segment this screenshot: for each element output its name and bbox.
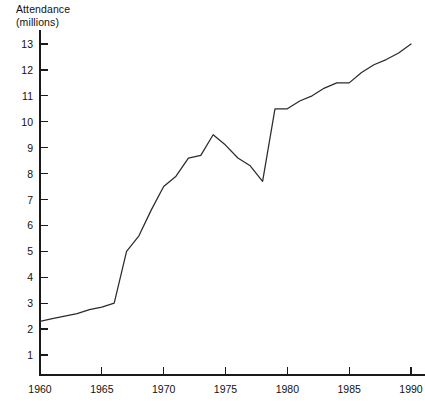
- y-tick-label: 1: [27, 349, 33, 361]
- x-tick-label: 1980: [276, 383, 300, 395]
- x-tick-label: 1965: [90, 383, 114, 395]
- x-tick-label: 1985: [337, 383, 361, 395]
- y-axis-ticks: 12345678910111213: [21, 38, 48, 361]
- y-tick-label: 10: [21, 116, 33, 128]
- y-tick-label: 4: [27, 271, 33, 283]
- attendance-line-chart: Attendance (millions) 12345678910111213 …: [0, 0, 425, 408]
- y-tick-label: 7: [27, 194, 33, 206]
- y-tick-label: 5: [27, 245, 33, 257]
- y-tick-label: 13: [21, 38, 33, 50]
- plot-area: 12345678910111213 1960196519701975198019…: [0, 0, 425, 408]
- y-tick-label: 6: [27, 219, 33, 231]
- y-tick-label: 11: [22, 90, 33, 102]
- y-tick-label: 9: [27, 142, 33, 154]
- y-tick-label: 3: [27, 297, 33, 309]
- x-tick-label: 1990: [399, 383, 423, 395]
- x-tick-label: 1970: [152, 383, 176, 395]
- x-tick-label: 1960: [28, 383, 52, 395]
- y-tick-label: 2: [27, 323, 33, 335]
- x-axis-ticks: 1960196519701975198019851990: [28, 367, 423, 395]
- axis-frame: [40, 30, 425, 375]
- y-tick-label: 8: [27, 168, 33, 180]
- y-tick-label: 12: [21, 64, 33, 76]
- attendance-series-line: [40, 44, 411, 321]
- x-tick-label: 1975: [214, 383, 238, 395]
